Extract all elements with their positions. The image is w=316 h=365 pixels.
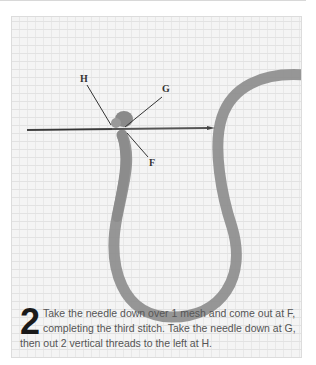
- point-h-label: H: [80, 73, 88, 84]
- step-instructions: Take the needle down over 1 mesh and com…: [20, 307, 296, 349]
- step-caption: 2 Take the needle down over 1 mesh and c…: [20, 306, 300, 351]
- step-number: 2: [20, 308, 40, 336]
- point-g-label: G: [162, 83, 170, 94]
- point-f-label: F: [149, 157, 155, 168]
- top-divider: [0, 0, 306, 1]
